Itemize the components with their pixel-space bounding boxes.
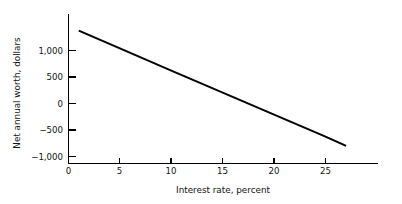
x-axis-title: Interest rate, percent <box>176 185 270 195</box>
y-axis-title: Net annual worth, dollars <box>12 37 22 149</box>
x-tick-label-20: 20 <box>269 166 280 176</box>
chart-figure: 1,000 500 0 −500 −1,000 0 5 10 15 20 25 … <box>0 0 402 204</box>
x-tick-label-0: 0 <box>66 166 71 176</box>
x-tick-label-5: 5 <box>117 166 122 176</box>
y-tick-marks <box>69 51 76 157</box>
y-tick-label-minus500: −500 <box>39 125 63 135</box>
y-tick-label-0: 0 <box>58 99 63 109</box>
x-tick-label-25: 25 <box>320 166 331 176</box>
line-chart: 1,000 500 0 −500 −1,000 0 5 10 15 20 25 … <box>0 0 402 204</box>
series-line-net-annual-worth <box>79 31 346 146</box>
x-tick-marks <box>69 158 326 164</box>
y-tick-label-1000: 1,000 <box>38 46 63 56</box>
y-tick-label-500: 500 <box>47 72 63 82</box>
y-tick-label-minus1000: −1,000 <box>31 152 63 162</box>
x-tick-label-15: 15 <box>217 166 228 176</box>
x-tick-label-10: 10 <box>166 166 177 176</box>
